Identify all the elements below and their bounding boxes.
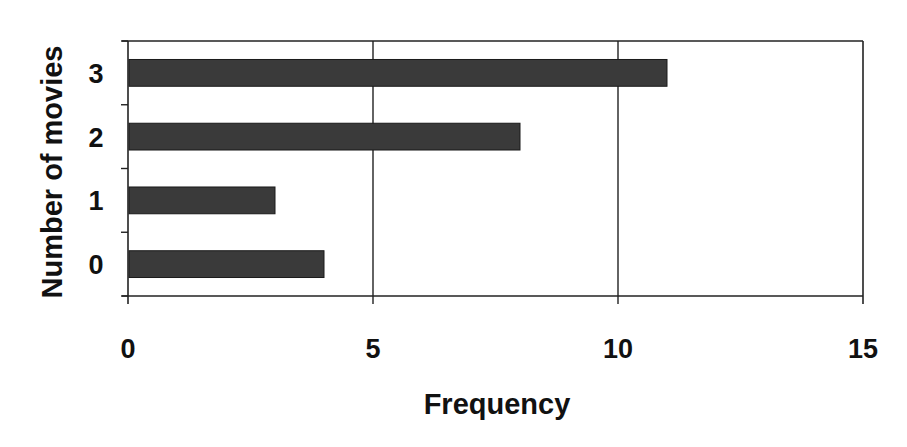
bar-1 [129, 187, 275, 214]
x-tick-label: 15 [848, 334, 878, 364]
bar-3 [129, 59, 667, 86]
y-tick-label: 2 [88, 123, 103, 153]
x-axis-tick-labels: 051015 [120, 334, 878, 364]
x-tick-label: 10 [603, 334, 633, 364]
bars [129, 59, 667, 277]
bar-chart: 051015 0123 Frequency Number of movies [0, 0, 907, 447]
y-axis-tick-labels: 0123 [88, 59, 103, 280]
y-tick-label: 1 [88, 186, 103, 216]
bar-2 [129, 123, 520, 150]
y-axis-title: Number of movies [36, 46, 68, 299]
bar-0 [129, 251, 324, 278]
x-tick-label: 5 [365, 334, 380, 364]
x-tick-label: 0 [120, 334, 135, 364]
y-tick-label: 3 [88, 59, 103, 89]
y-tick-label: 0 [88, 250, 103, 280]
x-axis-title: Frequency [424, 388, 571, 420]
